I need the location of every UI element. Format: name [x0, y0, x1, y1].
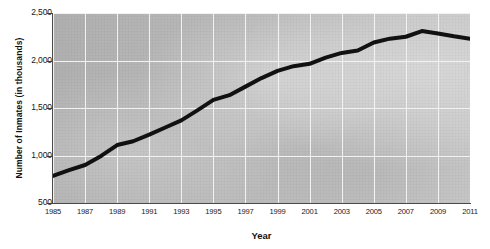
- x-axis-title: Year: [53, 230, 470, 241]
- chart-figure: Number of Inmates (in thousands) 2,5002,…: [0, 0, 490, 249]
- y-tick-label: 2,000: [8, 55, 52, 65]
- x-tick-label: 2011: [450, 207, 490, 216]
- y-tick-label: 2,500: [8, 7, 52, 17]
- y-tick-mark: [47, 156, 52, 157]
- series-line-inmates: [53, 13, 470, 203]
- y-tick-label: 1,500: [8, 102, 52, 112]
- y-tick-mark: [47, 203, 52, 204]
- y-tick-label: 1,000: [8, 150, 52, 160]
- y-tick-mark: [47, 61, 52, 62]
- x-axis-line: [52, 203, 471, 204]
- y-tick-mark: [47, 108, 52, 109]
- y-tick-mark: [47, 13, 52, 14]
- plot-area: [53, 13, 470, 203]
- y-tick-label: 500: [8, 197, 52, 207]
